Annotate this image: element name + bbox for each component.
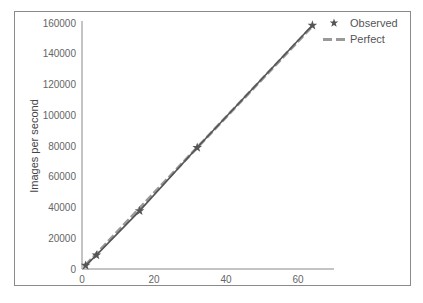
x-tick-label: 0 — [79, 274, 85, 285]
legend-label-perfect: Perfect — [350, 33, 385, 45]
legend-item-perfect: Perfect — [318, 31, 398, 47]
dashed-line-icon — [318, 38, 350, 41]
legend: Observed Perfect — [318, 15, 398, 47]
y-tick-label: 140000 — [43, 48, 77, 59]
legend-item-observed: Observed — [318, 15, 398, 31]
y-tick-label: 0 — [70, 264, 76, 275]
x-tick-label: 60 — [292, 274, 304, 285]
y-tick-label: 80000 — [48, 141, 76, 152]
y-tick-label: 60000 — [48, 171, 76, 182]
y-tick-label: 40000 — [48, 202, 76, 213]
y-axis-label: Images per second — [28, 99, 40, 193]
x-tick-label: 40 — [220, 274, 232, 285]
y-tick-label: 120000 — [43, 79, 77, 90]
y-tick-label: 20000 — [48, 233, 76, 244]
y-tick-label: 100000 — [43, 110, 77, 121]
legend-label-observed: Observed — [350, 17, 398, 29]
y-tick-label: 160000 — [43, 18, 77, 29]
x-tick-label: 20 — [148, 274, 160, 285]
star-marker-icon — [318, 18, 350, 28]
